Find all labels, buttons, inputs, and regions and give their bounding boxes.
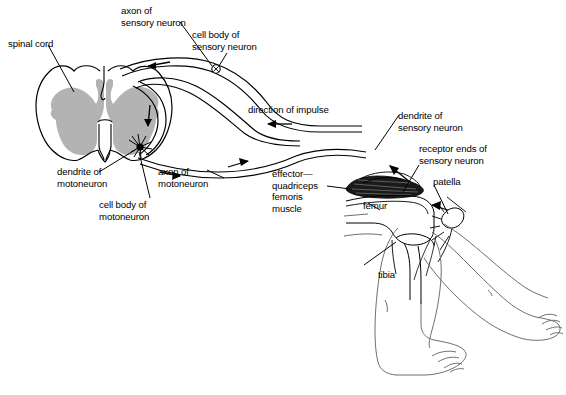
spinal-cord-ventral-edge [98,150,110,162]
label-patella: patella [433,176,461,188]
extended-leg-outline [424,224,563,340]
label-axon-of-motoneuron: axon of motoneuron [158,166,208,189]
leader-spinal-cord [48,45,74,92]
leader-cell-body-sensory [219,53,227,66]
label-receptor-ends-of-sensory-neuron: receptor ends of sensory neuron [419,143,487,166]
central-canal [98,120,112,122]
label-spinal-cord: spinal cord [8,38,53,50]
quadriceps-muscle [346,176,423,198]
label-axon-of-sensory-neuron: axon of sensory neuron [121,5,186,28]
leader-dendrite-sensory [375,115,399,150]
arrow-ventral-right-2 [228,158,249,167]
standing-leg-outline [375,228,466,375]
gray-matter-shape-right [106,79,159,155]
label-dendrite-of-sensory-neuron: dendrite of sensory neuron [398,110,463,133]
diagram-canvas: spinal cord axon of sensory neuron cell … [0,0,566,395]
tibia-bone-2 [418,246,421,304]
tibia-bone [404,243,410,300]
femur-bone [346,195,434,245]
leader-cell-body-motoneuron [139,152,150,198]
leader-lines [48,22,448,265]
label-effector-quadriceps-femoris-muscle: effector— quadriceps femoris muscle [272,168,318,214]
thigh-outline [344,214,382,236]
ventral-median-fissure-2 [106,124,111,160]
gray-matter-shape [51,79,104,155]
leader-tibia [364,242,396,265]
leader-axon-motoneuron [207,170,224,178]
label-tibia: tibia [378,269,395,281]
leader-patella [434,185,448,214]
label-dendrite-of-motoneuron: dendrite of motoneuron [57,166,107,189]
spinal-cord-group [36,66,172,162]
label-direction-of-impulse: direction of impulse [248,104,329,116]
label-cell-body-of-sensory-neuron: cell body of sensory neuron [192,29,257,52]
label-femur: femur [363,200,387,212]
label-cell-body-of-motoneuron: cell body of motoneuron [99,199,149,222]
